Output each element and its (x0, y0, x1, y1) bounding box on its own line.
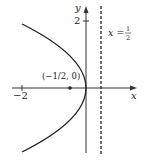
y-tick-label: 2 (74, 15, 80, 26)
directrix-label-den: 2 (126, 34, 130, 42)
directrix-label-lhs: x = (108, 27, 124, 38)
directrix-label: x = 1 2 (108, 25, 131, 42)
x-axis (12, 86, 137, 91)
x-axis-label: x (131, 90, 137, 101)
focus-point (68, 86, 72, 90)
x-tick-label: −2 (13, 90, 28, 101)
parabola-diagram: y 2 x −2 (−1/2, 0) x = 1 2 (0, 0, 146, 166)
directrix-label-num: 1 (126, 25, 130, 33)
y-axis-label: y (74, 2, 81, 13)
focus-label: (−1/2, 0) (42, 71, 80, 81)
